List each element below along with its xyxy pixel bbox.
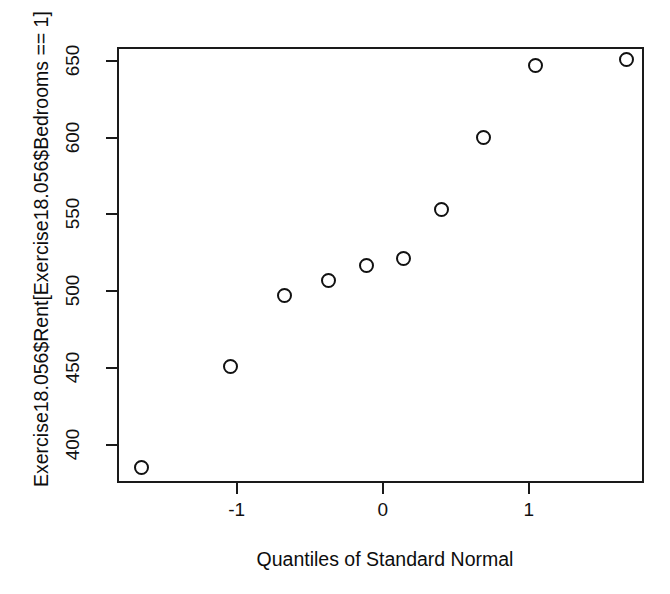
x-axis-tick bbox=[528, 483, 530, 494]
x-axis-tick-label: -1 bbox=[207, 500, 267, 519]
y-axis-tick bbox=[106, 137, 117, 139]
scatter-point bbox=[476, 130, 491, 145]
x-axis-tick-label: 0 bbox=[353, 500, 413, 519]
y-axis-tick-label: 600 bbox=[63, 109, 82, 165]
qq-plot-figure: 400450500550600650 -101 Exercise18.056$R… bbox=[0, 0, 670, 594]
y-axis-tick-label: 650 bbox=[63, 32, 82, 88]
scatter-point bbox=[359, 258, 374, 273]
y-axis-tick-label: 450 bbox=[63, 339, 82, 395]
y-axis-tick-label: 550 bbox=[63, 186, 82, 242]
x-axis-tick bbox=[382, 483, 384, 494]
y-axis-tick bbox=[106, 60, 117, 62]
x-axis-tick-label: 1 bbox=[499, 500, 559, 519]
scatter-point bbox=[619, 52, 634, 67]
y-axis-tick bbox=[106, 290, 117, 292]
x-axis-tick bbox=[236, 483, 238, 494]
plot-frame bbox=[117, 47, 644, 483]
scatter-point bbox=[321, 273, 336, 288]
y-axis-tick bbox=[106, 444, 117, 446]
y-axis-title: Exercise18.056$Rent[Exercise18.056$Bedro… bbox=[30, 11, 52, 487]
y-axis-tick bbox=[106, 367, 117, 369]
scatter-point bbox=[396, 251, 411, 266]
x-axis-title: Quantiles of Standard Normal bbox=[0, 548, 670, 570]
y-axis-tick bbox=[106, 213, 117, 215]
y-axis-tick-label: 400 bbox=[63, 416, 82, 472]
y-axis-tick-label: 500 bbox=[63, 263, 82, 319]
scatter-point bbox=[434, 202, 449, 217]
